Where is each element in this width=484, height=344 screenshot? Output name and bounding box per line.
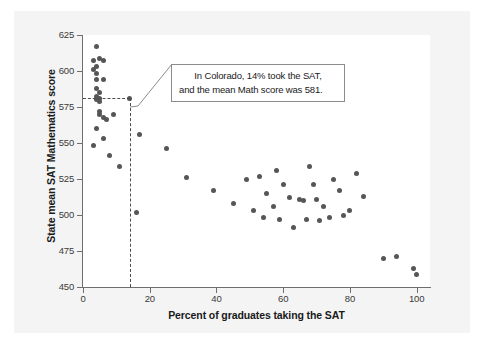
data-point bbox=[381, 256, 386, 261]
data-point bbox=[97, 99, 102, 104]
data-point bbox=[274, 168, 279, 173]
data-point bbox=[211, 188, 216, 193]
data-point bbox=[304, 217, 309, 222]
data-point bbox=[281, 182, 286, 187]
y-tick-label: 625 bbox=[34, 29, 74, 40]
y-tick bbox=[77, 143, 82, 144]
data-point bbox=[354, 171, 359, 176]
data-point bbox=[134, 210, 139, 215]
data-point bbox=[111, 112, 116, 117]
y-tick bbox=[77, 107, 82, 108]
x-tick-label: 60 bbox=[263, 293, 303, 304]
data-point bbox=[414, 272, 419, 277]
data-point bbox=[231, 201, 236, 206]
data-point bbox=[244, 177, 249, 182]
y-tick bbox=[77, 251, 82, 252]
data-point bbox=[331, 177, 336, 182]
data-point bbox=[101, 77, 106, 82]
x-tick-label: 80 bbox=[330, 293, 370, 304]
data-point bbox=[271, 204, 276, 209]
data-point bbox=[257, 174, 262, 179]
data-point bbox=[314, 197, 319, 202]
y-tick bbox=[77, 287, 82, 288]
data-point bbox=[91, 58, 96, 63]
y-tick bbox=[77, 35, 82, 36]
data-point bbox=[307, 164, 312, 169]
x-axis-line bbox=[82, 287, 431, 288]
x-tick-label: 20 bbox=[130, 293, 170, 304]
y-tick bbox=[77, 71, 82, 72]
data-point bbox=[251, 208, 256, 213]
data-point bbox=[94, 77, 99, 82]
data-point bbox=[361, 194, 366, 199]
data-point bbox=[184, 175, 189, 180]
callout-leader-line bbox=[128, 62, 174, 108]
annotation-line-2: and the mean Math score was 581. bbox=[179, 83, 337, 97]
y-tick bbox=[77, 215, 82, 216]
x-tick-label: 40 bbox=[196, 293, 236, 304]
y-tick-label: 450 bbox=[34, 281, 74, 292]
data-point bbox=[94, 126, 99, 131]
data-point bbox=[94, 64, 99, 69]
y-axis-line bbox=[82, 35, 83, 288]
x-axis-title: Percent of graduates taking the SAT bbox=[83, 309, 430, 321]
data-point bbox=[311, 182, 316, 187]
annotation-callout: In Colorado, 14% took the SAT, and the m… bbox=[171, 64, 345, 102]
data-point bbox=[301, 198, 306, 203]
data-point bbox=[341, 213, 346, 218]
data-point bbox=[94, 44, 99, 49]
data-point bbox=[264, 191, 269, 196]
y-axis-title: State mean SAT Mathematics score bbox=[45, 41, 57, 271]
reference-line-horizontal bbox=[83, 98, 130, 99]
data-point bbox=[101, 136, 106, 141]
data-point bbox=[321, 204, 326, 209]
x-tick-label: 100 bbox=[397, 293, 437, 304]
annotation-line-1: In Colorado, 14% took the SAT, bbox=[179, 69, 337, 83]
figure-container: 450475500525550575600625020406080100 In … bbox=[0, 0, 484, 344]
reference-line-vertical bbox=[130, 98, 131, 287]
data-point bbox=[91, 143, 96, 148]
data-point bbox=[117, 164, 122, 169]
data-point bbox=[411, 266, 416, 271]
y-tick bbox=[77, 179, 82, 180]
x-tick-label: 0 bbox=[63, 293, 103, 304]
